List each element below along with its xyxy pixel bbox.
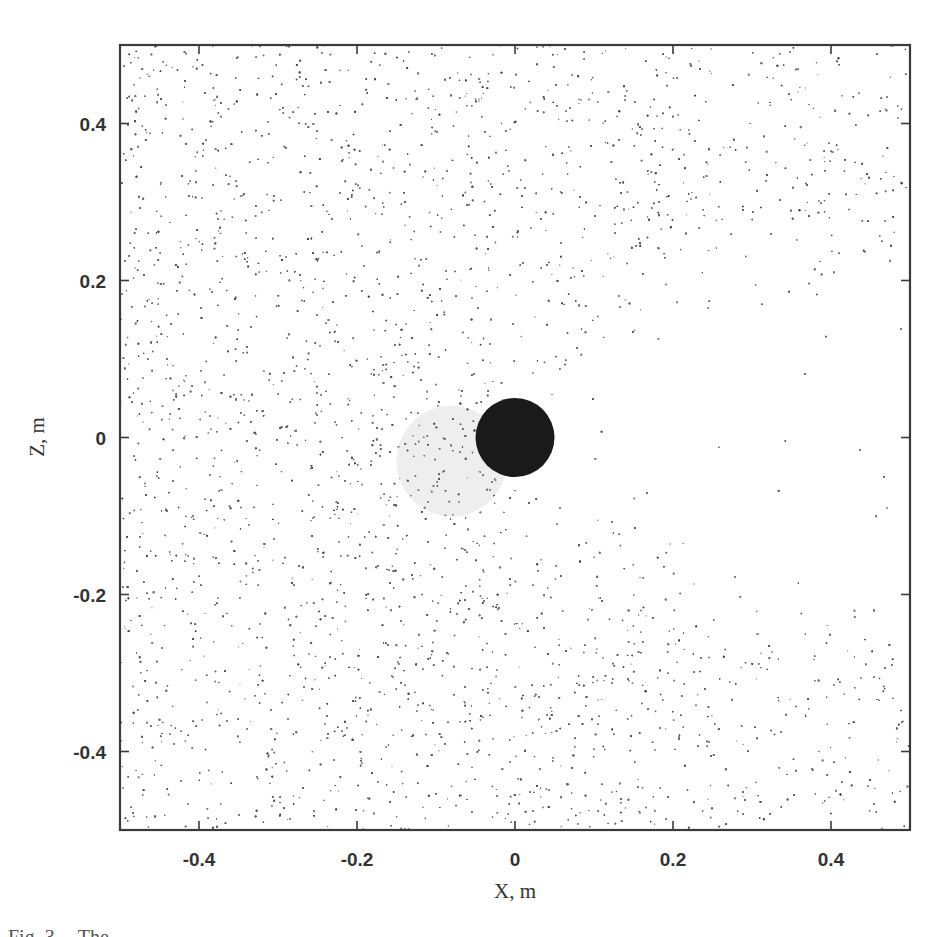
caption-text: The [78,926,109,937]
x-tick-label: -0.4 [183,849,216,870]
x-tick-label: 0 [510,849,521,870]
y-axis-label: Z, m [25,417,49,457]
y-tick-label: 0 [95,428,106,449]
caption-fig-label: Fig. 3. [8,926,60,937]
y-tick-label: -0.2 [73,585,106,606]
y-tick-label: 0.4 [80,114,107,135]
y-tick-label: -0.4 [73,742,106,763]
x-axis-label: X, m [494,879,536,903]
figure-caption: Fig. 3.The [8,926,127,937]
x-tick-label: 0.4 [818,849,845,870]
scatter-figure: -0.4-0.200.20.4 0.40.20-0.2-0.4 X, m Z, … [0,0,952,937]
obstacle-disk [476,398,555,477]
x-tick-label: 0.2 [660,849,686,870]
y-tick-label: 0.2 [80,271,106,292]
plot-canvas: -0.4-0.200.20.4 0.40.20-0.2-0.4 X, m Z, … [0,0,952,937]
obstacle-circle [476,398,555,477]
x-tick-label: -0.2 [341,849,374,870]
